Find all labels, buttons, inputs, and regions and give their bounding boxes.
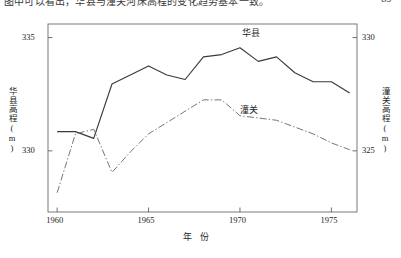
figure-line-chart: 图中可以看出，华县与潼关河床高程的变化趋势基本一致。 · 85 · 华县高程(m… bbox=[0, 0, 401, 258]
y-tick-label-left: 335 bbox=[22, 32, 35, 42]
series-layer bbox=[57, 48, 350, 193]
y-axis-right-title: 潼关高程(m) bbox=[379, 87, 391, 153]
y-axis-left-title: 华县高程(m) bbox=[6, 87, 18, 153]
x-axis-title: 年 份 bbox=[183, 230, 212, 243]
x-tick-label: 1970 bbox=[229, 215, 246, 225]
y-tick-label-right: 330 bbox=[362, 32, 375, 42]
plot-frame bbox=[48, 24, 357, 212]
x-tick-label: 1960 bbox=[46, 215, 63, 225]
y-tick-label-right: 325 bbox=[362, 145, 375, 155]
series-line-tongguan bbox=[57, 100, 350, 193]
series-line-huaxian bbox=[57, 48, 350, 139]
y-tick-label-left: 330 bbox=[22, 145, 35, 155]
axes-layer bbox=[48, 24, 357, 212]
series-label-tongguan: 潼关 bbox=[240, 103, 258, 116]
x-tick-label: 1975 bbox=[320, 215, 337, 225]
x-tick-label: 1965 bbox=[138, 215, 155, 225]
series-label-huaxian: 华县 bbox=[242, 26, 260, 39]
